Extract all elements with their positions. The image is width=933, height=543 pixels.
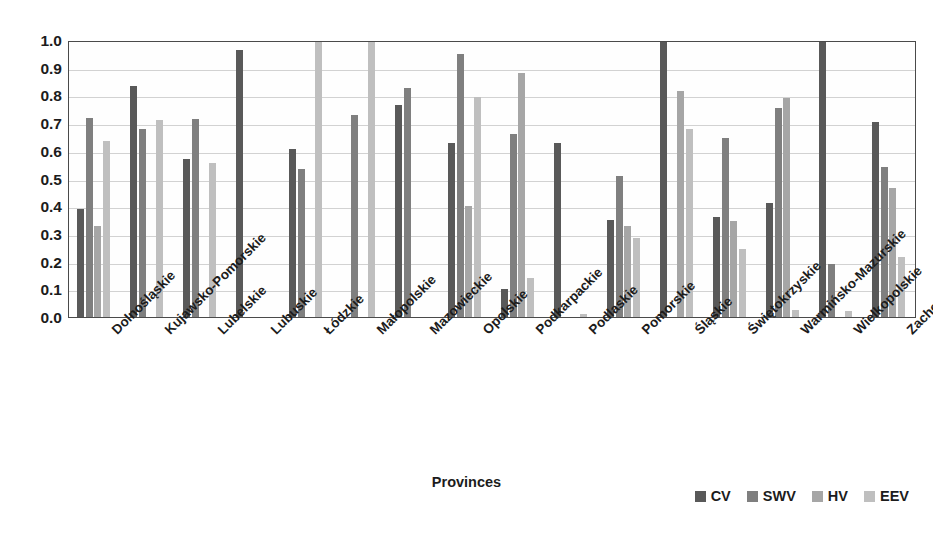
bar-group [599,42,652,317]
bar [660,41,667,317]
x-tick-label: Łódzkie [321,326,332,337]
bar [183,159,190,317]
bar [192,119,199,317]
legend-label: CV [711,489,731,504]
y-tick-label: 0.1 [8,283,62,299]
bar [289,149,296,317]
y-tick-label: 0.3 [8,227,62,243]
x-axis-category-labels: DolnośląskieKujawsko-PomorskieLubelskieL… [68,318,916,458]
y-tick-label: 0.7 [8,116,62,132]
y-tick-label: 0.4 [8,199,62,215]
legend-swatch-icon [747,491,758,502]
bar-group [493,42,546,317]
x-tick-label: Kujawsko-Pomorskie [162,326,173,337]
x-tick-label: Podlaskie [586,326,597,337]
bar [404,88,411,317]
x-tick-label: Małopolskie [374,326,385,337]
bar [819,41,826,317]
x-tick-label: Dolnośląskie [109,326,120,337]
x-tick-label: Zachodniopomorskie [904,326,915,337]
bar [94,226,101,317]
bar [351,115,358,317]
y-tick-label: 0.2 [8,255,62,271]
y-tick-label: 0.8 [8,89,62,105]
legend: CVSWVHVEEV [695,489,909,504]
legend-label: EEV [880,489,909,504]
x-tick-label: Opolskie [480,326,491,337]
y-tick-label: 1.0 [8,33,62,49]
y-axis: 1.00.90.80.70.60.50.40.30.20.10.0 [8,30,62,330]
x-tick-label: Wielkopolskie [851,326,862,337]
y-tick-label: 0.6 [8,144,62,160]
bar [739,249,746,317]
bar [130,86,137,317]
legend-swatch-icon [695,491,706,502]
bar [86,118,93,317]
bar [77,209,84,317]
y-tick-label: 0.0 [8,310,62,326]
legend-item[interactable]: HV [812,489,848,504]
bar [554,143,561,318]
legend-label: HV [828,489,848,504]
bar [845,311,852,317]
bar [368,41,375,317]
legend-swatch-icon [812,491,823,502]
bar-chart: 1.00.90.80.70.60.50.40.30.20.10.0 Dolnoś… [0,0,933,543]
bar [103,141,110,317]
x-tick-label: Podkarpackie [533,326,544,337]
legend-item[interactable]: SWV [747,489,796,504]
y-tick-label: 0.9 [8,61,62,77]
x-tick-label: Pomorskie [639,326,650,337]
bar-group [228,42,281,317]
bar [580,314,587,317]
bar-group [334,42,387,317]
x-tick-label: Mazowieckie [427,326,438,337]
bar [775,108,782,317]
bar [315,41,322,317]
bar [872,122,879,317]
bar-group [281,42,334,317]
bar [395,105,402,317]
bar-group [705,42,758,317]
x-tick-label: Lubelskie [215,326,226,337]
bar [792,310,799,317]
bar-group [69,42,122,317]
x-tick-label: Warmińsko-Mazurskie [798,326,809,337]
legend-item[interactable]: EEV [864,489,909,504]
x-tick-label: Świętokrzyskie [745,326,756,337]
x-tick-label: Śląskie [692,326,703,337]
legend-item[interactable]: CV [695,489,731,504]
bar [722,138,729,317]
bar-group [652,42,705,317]
legend-swatch-icon [864,491,875,502]
bar [518,73,525,317]
y-tick-label: 0.5 [8,172,62,188]
bar [236,50,243,317]
x-tick-label: Lubuskie [268,326,279,337]
bar [457,54,464,317]
legend-label: SWV [763,489,796,504]
bar [633,238,640,317]
bar [448,143,455,318]
